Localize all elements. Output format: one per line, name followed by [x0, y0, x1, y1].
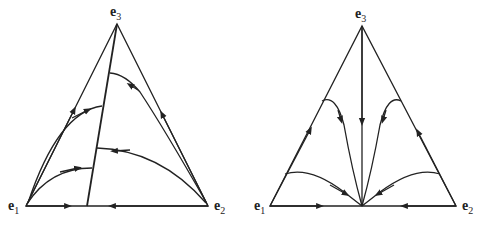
- vertex-label-e1-left: e1: [8, 198, 19, 216]
- right-simplex: [270, 26, 456, 206]
- orbit: [110, 73, 206, 202]
- vertex-label-e2-left: e2: [214, 198, 225, 216]
- orbit: [97, 148, 206, 203]
- left-simplex: [26, 24, 208, 206]
- rest-point-line: [87, 24, 117, 206]
- vertex-label-e1-right: e1: [254, 198, 265, 216]
- orbit: [362, 172, 440, 206]
- orbit: [362, 100, 401, 206]
- orbit: [27, 168, 92, 204]
- triangle-edges: [270, 26, 456, 206]
- vertex-label-e3-right: e3: [355, 6, 366, 24]
- phase-portraits: [0, 0, 480, 237]
- vertex-label-e2-right: e2: [462, 198, 473, 216]
- orbit: [285, 172, 362, 206]
- vertex-label-e3-left: e3: [110, 4, 121, 22]
